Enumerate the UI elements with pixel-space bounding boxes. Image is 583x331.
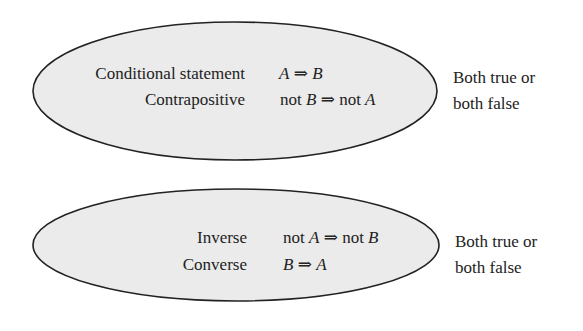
math-var: A xyxy=(316,255,326,274)
implies-arrow: ⇒ xyxy=(294,64,308,83)
implies-arrow: ⇒ xyxy=(298,255,312,274)
math-mid: not xyxy=(342,228,368,247)
relation-line-1: Both true or xyxy=(455,229,537,255)
implies-arrow: ⇒ xyxy=(324,228,338,247)
math-var: A xyxy=(279,64,289,83)
math-contrapositive: not B ⇒ not A xyxy=(280,90,376,110)
implies-arrow: ⇒ xyxy=(321,90,335,109)
relation-group-2: Both true or both false xyxy=(455,229,537,281)
ellipses-layer xyxy=(0,0,583,331)
math-var: B xyxy=(306,90,316,109)
relation-line-2: both false xyxy=(455,255,537,281)
math-mid: not xyxy=(339,90,365,109)
relation-line-1: Both true or xyxy=(453,65,535,91)
relation-group-1: Both true or both false xyxy=(453,65,535,117)
math-var: A xyxy=(309,228,319,247)
math-inverse: not A ⇒ not B xyxy=(283,228,379,248)
math-var: B xyxy=(312,64,322,83)
math-var: B xyxy=(368,228,378,247)
relation-line-2: both false xyxy=(453,91,535,117)
math-conditional: A ⇒ B xyxy=(279,64,323,84)
label-converse: Converse xyxy=(47,255,247,275)
math-var: A xyxy=(365,90,375,109)
math-pre: not xyxy=(280,90,306,109)
math-pre: not xyxy=(283,228,309,247)
math-var: B xyxy=(283,255,293,274)
label-inverse: Inverse xyxy=(47,228,247,248)
math-converse: B ⇒ A xyxy=(283,255,327,275)
label-contrapositive: Contrapositive xyxy=(45,90,245,110)
label-conditional-statement: Conditional statement xyxy=(45,64,245,84)
